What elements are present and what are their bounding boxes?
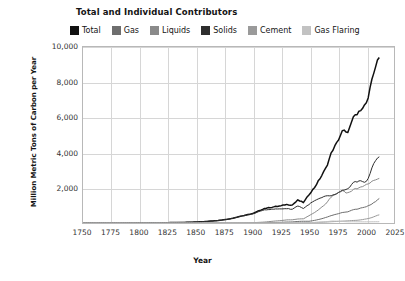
x-axis-tick-label: 1975	[329, 228, 348, 237]
x-axis-tick-label: 1775	[101, 228, 120, 237]
legend-item-gas[interactable]: Gas	[112, 26, 139, 35]
legend-label: Solids	[213, 26, 237, 35]
series-line-solids	[83, 157, 379, 223]
legend-swatch-icon	[302, 26, 311, 35]
x-axis-tick-label: 1900	[243, 228, 262, 237]
x-axis-ticks: 1750177518001825185018751900192519501975…	[82, 228, 395, 242]
series-lines	[83, 47, 394, 223]
legend-item-solids[interactable]: Solids	[201, 26, 237, 35]
legend-item-cement[interactable]: Cement	[248, 26, 291, 35]
chart-title: Total and Individual Contributors	[76, 7, 237, 17]
x-axis-tick-label: 1800	[129, 228, 148, 237]
legend-swatch-icon	[201, 26, 210, 35]
legend-swatch-icon	[150, 26, 159, 35]
y-axis-ticks: 2,0004,0006,0008,00010,000	[36, 46, 78, 224]
y-axis-tick-label: 4,000	[38, 148, 78, 157]
chart-legend: TotalGasLiquidsSolidsCementGas Flaring	[70, 26, 360, 35]
legend-item-total[interactable]: Total	[70, 26, 101, 35]
y-axis-tick-label: 10,000	[38, 42, 78, 51]
x-axis-tick-label: 1750	[72, 228, 91, 237]
legend-label: Liquids	[162, 26, 190, 35]
legend-swatch-icon	[70, 26, 79, 35]
series-line-total	[83, 57, 379, 222]
legend-item-liquids[interactable]: Liquids	[150, 26, 190, 35]
y-axis-tick-label: 2,000	[38, 184, 78, 193]
x-axis-tick-label: 2000	[357, 228, 376, 237]
x-axis-tick-label: 1825	[158, 228, 177, 237]
y-axis-tick-label: 6,000	[38, 113, 78, 122]
legend-swatch-icon	[112, 26, 121, 35]
x-axis-tick-label: 1950	[300, 228, 319, 237]
x-axis-tick-label: 1850	[186, 228, 205, 237]
x-axis-tick-label: 2025	[385, 228, 404, 237]
series-line-liquids	[83, 178, 379, 223]
legend-label: Total	[82, 26, 101, 35]
legend-item-gas-flaring[interactable]: Gas Flaring	[302, 26, 359, 35]
legend-swatch-icon	[248, 26, 257, 35]
x-axis-tick-label: 1875	[215, 228, 234, 237]
legend-label: Gas Flaring	[314, 26, 359, 35]
x-axis-tick-label: 1925	[272, 228, 291, 237]
legend-label: Gas	[124, 26, 139, 35]
y-axis-tick-label: 8,000	[38, 77, 78, 86]
legend-label: Cement	[260, 26, 291, 35]
chart-container: Total and Individual Contributors TotalG…	[0, 0, 405, 281]
plot-area	[82, 46, 395, 224]
x-axis-title: Year	[0, 256, 405, 265]
